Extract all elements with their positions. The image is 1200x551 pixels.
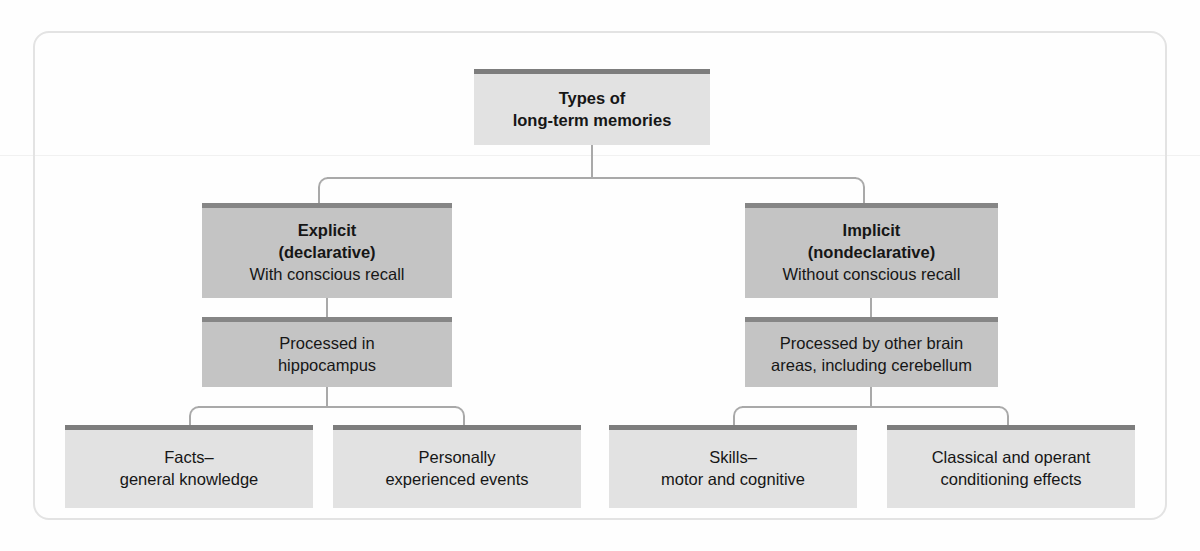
facts-line-2: general knowledge xyxy=(114,469,265,491)
node-root-types-of-long-term-memories: Types of long-term memories xyxy=(474,69,710,145)
connector-root-stem xyxy=(591,145,593,178)
skills-line-1: Skills– xyxy=(703,447,763,469)
node-processing-other-brain-areas: Processed by other brain areas, includin… xyxy=(745,317,998,387)
node-branch-explicit: Explicit (declarative) With conscious re… xyxy=(202,203,452,298)
connector-elbow-to-implicit xyxy=(853,177,865,205)
explicit-description: With conscious recall xyxy=(244,264,411,286)
implicit-description: Without conscious recall xyxy=(777,264,967,286)
figure-canvas: Types of long-term memories Explicit (de… xyxy=(0,0,1200,551)
node-processing-hippocampus: Processed in hippocampus xyxy=(202,317,452,387)
events-line-1: Personally xyxy=(412,447,501,469)
connector-root-bus xyxy=(327,177,856,179)
node-leaf-skills: Skills– motor and cognitive xyxy=(609,425,857,508)
hippocampus-line-1: Processed in xyxy=(273,333,380,355)
skills-line-2: motor and cognitive xyxy=(655,469,811,491)
connector-explicit-to-processing xyxy=(326,298,328,319)
implicit-title: Implicit xyxy=(837,220,907,242)
hippocampus-line-2: hippocampus xyxy=(272,355,382,377)
node-leaf-conditioning-effects: Classical and operant conditioning effec… xyxy=(887,425,1135,508)
connector-elbow-to-explicit xyxy=(318,177,330,205)
node-leaf-personally-experienced-events: Personally experienced events xyxy=(333,425,581,508)
cerebellum-line-2: areas, including cerebellum xyxy=(765,355,978,377)
connector-implicit-to-processing xyxy=(870,298,872,319)
facts-line-1: Facts– xyxy=(158,447,220,469)
implicit-subtitle: (nondeclarative) xyxy=(802,242,941,264)
root-line-2: long-term memories xyxy=(507,110,678,132)
cerebellum-line-1: Processed by other brain xyxy=(774,333,969,355)
root-line-1: Types of xyxy=(553,88,632,110)
connector-explicit-children-stem xyxy=(326,387,328,408)
node-branch-implicit: Implicit (nondeclarative) Without consci… xyxy=(745,203,998,298)
conditioning-line-2: conditioning effects xyxy=(935,469,1088,491)
connector-explicit-children-bus xyxy=(198,406,456,408)
explicit-title: Explicit xyxy=(292,220,363,242)
connector-implicit-children-stem xyxy=(870,387,872,408)
node-leaf-facts: Facts– general knowledge xyxy=(65,425,313,508)
explicit-subtitle: (declarative) xyxy=(272,242,381,264)
events-line-2: experienced events xyxy=(379,469,534,491)
conditioning-line-1: Classical and operant xyxy=(926,447,1097,469)
connector-implicit-children-bus xyxy=(742,406,1000,408)
